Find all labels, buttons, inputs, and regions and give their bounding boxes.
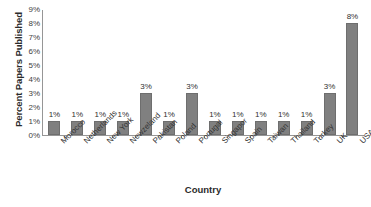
y-tick-label: 2%: [18, 104, 40, 112]
bar-chart: Percent Papers Published 0%1%2%3%4%5%6%7…: [0, 0, 371, 207]
y-tick-label: 1%: [18, 118, 40, 126]
bar-value-label: 3%: [181, 82, 204, 91]
x-axis-category-label: Morocco: [59, 139, 65, 145]
bar-group[interactable]: 1%: [249, 10, 272, 135]
y-tick-label: 9%: [18, 6, 40, 14]
bar[interactable]: [48, 121, 60, 135]
plot-area: 1%1%1%1%3%1%3%1%1%1%1%1%3%8%: [42, 10, 364, 136]
bar-group[interactable]: 1%: [272, 10, 295, 135]
x-axis-title: Country: [42, 184, 364, 195]
x-axis-category-label: Turkey: [312, 139, 318, 145]
bar-value-label: 3%: [318, 82, 341, 91]
bar-group[interactable]: 1%: [295, 10, 318, 135]
x-axis-category-label: Newzeland: [128, 139, 134, 145]
bar-group[interactable]: 3%: [181, 10, 204, 135]
x-axis-category-label: UK: [335, 139, 341, 145]
bar-value-label: 1%: [272, 110, 295, 119]
x-axis-category-label: Taiwan: [266, 139, 272, 145]
x-axis-category-label: Netherlands: [82, 139, 88, 145]
y-axis-tick-labels: 0%1%2%3%4%5%6%7%8%9%: [18, 10, 40, 136]
bar-value-label: 1%: [203, 110, 226, 119]
bar-group[interactable]: 1%: [203, 10, 226, 135]
x-axis-category-label: Singapor: [220, 139, 226, 145]
bar-value-label: 1%: [295, 110, 318, 119]
bar-group[interactable]: 8%: [341, 10, 364, 135]
bar-group[interactable]: 1%: [66, 10, 89, 135]
y-tick-label: 6%: [18, 48, 40, 56]
x-axis-category-label: Portugal: [197, 139, 203, 145]
x-axis-category-label: Thailand: [289, 139, 295, 145]
x-axis-category-label: Spain: [243, 139, 249, 145]
x-axis-category-label: Pakistan: [151, 139, 157, 145]
y-tick-label: 3%: [18, 90, 40, 98]
x-axis-category-label: USA: [358, 139, 364, 145]
bar-value-label: 1%: [249, 110, 272, 119]
bar-group[interactable]: 3%: [318, 10, 341, 135]
y-tick-label: 7%: [18, 34, 40, 42]
y-tick-label: 5%: [18, 62, 40, 70]
bar-value-label: 3%: [135, 82, 158, 91]
bar-value-label: 1%: [43, 110, 66, 119]
y-tick-label: 0%: [18, 132, 40, 140]
bar-value-label: 1%: [66, 110, 89, 119]
bars-layer: 1%1%1%1%3%1%3%1%1%1%1%1%3%8%: [43, 10, 364, 135]
bar-group[interactable]: 1%: [43, 10, 66, 135]
bar-group[interactable]: 1%: [226, 10, 249, 135]
y-tick-label: 8%: [18, 20, 40, 28]
y-tick-label: 4%: [18, 76, 40, 84]
bar-value-label: 1%: [226, 110, 249, 119]
bar[interactable]: [346, 23, 358, 135]
x-axis-category-labels: MoroccoNetherlandsNew YorkNewzelandPakis…: [42, 139, 364, 181]
bar-value-label: 8%: [341, 12, 364, 21]
x-axis-category-label: New York: [105, 139, 111, 145]
x-axis-category-label: Poland: [174, 139, 180, 145]
